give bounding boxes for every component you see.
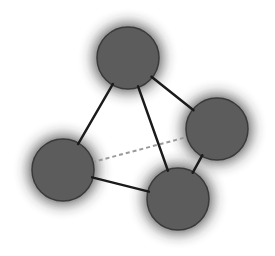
edge-top-left (78, 84, 113, 144)
edge-top-right (151, 77, 193, 111)
node-right (186, 98, 248, 160)
hidden-edges (92, 137, 188, 163)
edge-left-bottom (92, 177, 149, 191)
node-top (97, 27, 159, 89)
tetrahedron-diagram (0, 0, 275, 256)
diagram-canvas (0, 0, 275, 256)
edge-left-right (92, 137, 188, 163)
edge-top-bottom (138, 86, 168, 170)
node-left (32, 139, 94, 201)
nodes (32, 27, 248, 230)
node-bottom (147, 168, 209, 230)
